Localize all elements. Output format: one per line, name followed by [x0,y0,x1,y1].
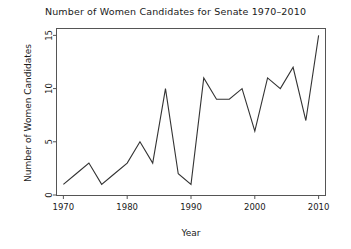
y-tick-label: 15 [44,30,54,41]
x-tick-label: 1980 [116,202,138,212]
y-axis-label: Number of Women Candidates [23,33,33,193]
y-tick-label: 0 [44,192,54,197]
x-tick-label: 2000 [244,202,266,212]
x-axis-label: Year [56,228,326,238]
x-tick-label: 2010 [308,202,330,212]
x-tick-label: 1970 [53,202,75,212]
x-axis-ticks: 19701980199020002010 [53,195,330,212]
x-tick-label: 1990 [180,202,202,212]
y-tick-label: 5 [44,139,54,144]
chart-figure: Number of Women Candidates for Senate 19… [0,0,351,249]
y-axis-ticks: 051015 [44,30,57,198]
y-tick-label: 10 [44,83,54,94]
line-chart-plot: 19701980199020002010 051015 [0,0,351,249]
plot-frame [57,29,326,196]
